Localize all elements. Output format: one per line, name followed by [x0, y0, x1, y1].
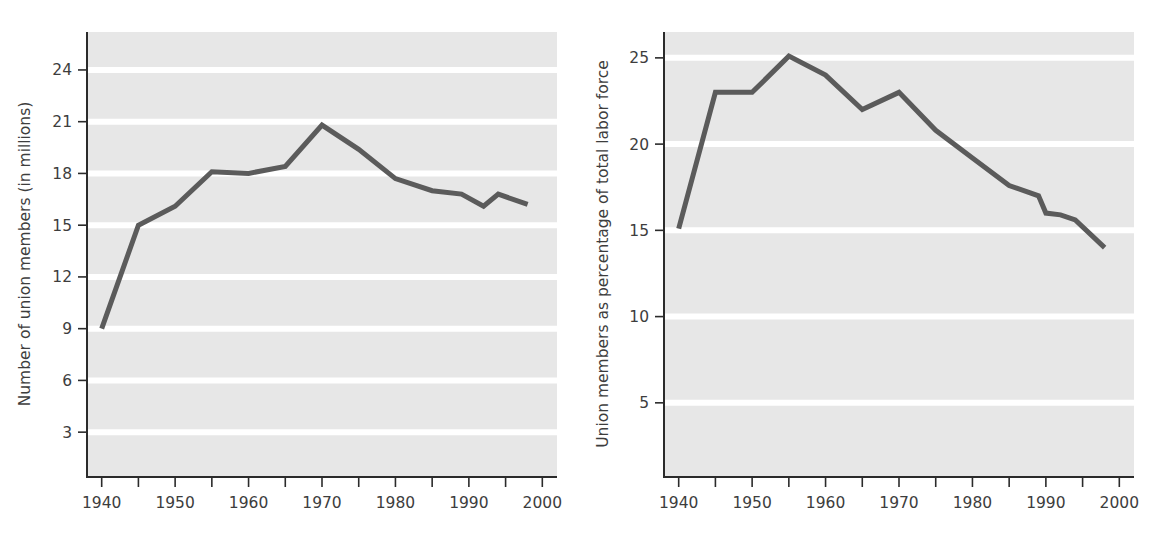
x-axis-tick-labels: 1940195019601970198019902000 [82, 494, 562, 512]
chart-panel-right: 510152025 1940195019601970198019902000 U… [584, 0, 1168, 543]
x-tick-label: 1950 [155, 494, 194, 512]
y-tick-label: 15 [52, 217, 72, 235]
y-axis-title: Union members as percentage of total lab… [594, 60, 612, 448]
x-tick-label: 1940 [82, 494, 121, 512]
y-tick-label: 25 [629, 49, 649, 67]
x-tick-label: 2000 [523, 494, 562, 512]
plot-background [87, 32, 557, 477]
x-tick-label: 1960 [806, 494, 845, 512]
x-tick-label: 1980 [376, 494, 415, 512]
y-tick-label: 9 [62, 320, 72, 338]
y-tick-label: 21 [52, 113, 72, 131]
y-tick-label: 24 [52, 61, 72, 79]
y-tick-label: 10 [629, 308, 649, 326]
x-axis-tick-labels: 1940195019601970198019902000 [659, 494, 1139, 512]
x-tick-label: 1970 [879, 494, 918, 512]
y-tick-label: 3 [62, 424, 72, 442]
plot-background [664, 32, 1134, 477]
y-tick-label: 15 [629, 222, 649, 240]
line-chart-union-members-percentage: 510152025 1940195019601970198019902000 U… [584, 0, 1168, 543]
y-axis-tick-labels: 3691215182124 [52, 61, 72, 441]
x-tick-label: 2000 [1100, 494, 1139, 512]
y-axis-title: Number of union members (in millions) [16, 102, 34, 407]
x-tick-label: 1940 [659, 494, 698, 512]
line-chart-union-members-millions: 3691215182124 19401950196019701980199020… [0, 0, 584, 543]
y-tick-label: 18 [52, 165, 72, 183]
x-tick-label: 1970 [302, 494, 341, 512]
y-tick-label: 12 [52, 268, 72, 286]
y-axis-tick-labels: 510152025 [629, 49, 649, 412]
y-tick-label: 20 [629, 136, 649, 154]
x-tick-label: 1960 [229, 494, 268, 512]
chart-panel-left: 3691215182124 19401950196019701980199020… [0, 0, 584, 543]
y-tick-label: 6 [62, 372, 72, 390]
x-tick-label: 1990 [449, 494, 488, 512]
figure-root: 3691215182124 19401950196019701980199020… [0, 0, 1168, 543]
x-tick-label: 1990 [1026, 494, 1065, 512]
y-tick-label: 5 [639, 394, 649, 412]
x-tick-label: 1980 [953, 494, 992, 512]
x-tick-label: 1950 [732, 494, 771, 512]
